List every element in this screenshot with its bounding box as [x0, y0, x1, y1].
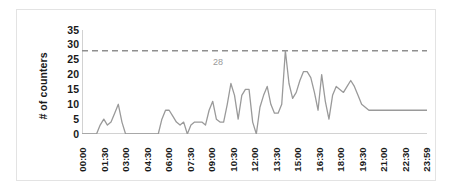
y-axis-tick-10: 10: [67, 99, 79, 110]
x-axis-tick-1800: 18:00: [334, 137, 346, 183]
y-axis-title-text: # of counters: [37, 52, 49, 119]
y-axis-tick-5: 5: [73, 114, 79, 125]
x-axis-tick-1030: 10:30: [227, 137, 239, 183]
x-axis-tick-labels: 00:0001:3003:0004:3006:0007:3009:0010:30…: [82, 137, 427, 185]
x-axis-tick-label: 21:00: [378, 143, 389, 177]
y-axis-title: # of counters: [35, 34, 51, 138]
x-axis-tick-label: 18:00: [335, 143, 346, 177]
y-axis-tick-25: 25: [67, 54, 79, 65]
x-axis-tick-label: 10:30: [227, 143, 238, 177]
x-axis-tick-label: 13:30: [270, 143, 281, 177]
x-axis-tick-1630: 16:30: [313, 137, 325, 183]
x-axis-tick-label: 00:00: [77, 143, 88, 177]
x-axis-tick-1930: 19:30: [356, 137, 368, 183]
x-axis-tick-0130: 01:30: [98, 137, 110, 183]
x-axis-tick-0600: 06:00: [162, 137, 174, 183]
x-axis-tick-label: 12:00: [249, 143, 260, 177]
y-axis-tick-30: 30: [67, 39, 79, 50]
y-axis-tick-20: 20: [67, 69, 79, 80]
x-axis-tick-label: 06:00: [163, 143, 174, 177]
x-axis-tick-0000: 00:00: [76, 137, 88, 183]
x-axis-tick-0730: 07:30: [184, 137, 196, 183]
x-axis-tick-2230: 22:30: [399, 137, 411, 183]
y-axis-tick-labels: 05101520253035: [55, 24, 79, 140]
x-axis-tick-2359: 23:59: [420, 137, 432, 183]
x-axis-tick-label: 07:30: [184, 143, 195, 177]
x-axis-tick-2100: 21:00: [377, 137, 389, 183]
x-axis-tick-1500: 15:00: [291, 137, 303, 183]
x-axis-tick-label: 01:30: [98, 143, 109, 177]
x-axis-tick-0900: 09:00: [205, 137, 217, 183]
chart-svg: [82, 30, 427, 134]
x-axis-tick-label: 19:30: [356, 143, 367, 177]
x-axis-tick-0300: 03:00: [119, 137, 131, 183]
x-axis-tick-1330: 13:30: [270, 137, 282, 183]
x-axis-tick-label: 09:00: [206, 143, 217, 177]
x-axis-tick-label: 04:30: [141, 143, 152, 177]
x-axis-tick-label: 23:59: [421, 143, 432, 177]
data-series-line: [82, 51, 427, 134]
x-axis-tick-label: 22:30: [399, 143, 410, 177]
chart-figure: # of counters 05101520253035 28 00:0001:…: [16, 9, 436, 181]
threshold-label: 28: [213, 57, 223, 67]
x-axis-tick-label: 15:00: [292, 143, 303, 177]
plot-area: 28: [82, 30, 427, 134]
x-axis-tick-label: 03:00: [120, 143, 131, 177]
y-axis-tick-35: 35: [67, 25, 79, 36]
x-axis-tick-0430: 04:30: [141, 137, 153, 183]
y-axis-tick-15: 15: [67, 84, 79, 95]
x-axis-tick-label: 16:30: [313, 143, 324, 177]
x-axis-tick-1200: 12:00: [248, 137, 260, 183]
